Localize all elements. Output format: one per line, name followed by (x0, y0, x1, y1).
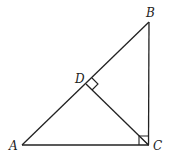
triangle-figure: A B C D (0, 0, 172, 166)
label-a: A (8, 139, 18, 153)
right-angle-diagonal-c (139, 136, 149, 145)
right-angle-mark-d (92, 78, 98, 90)
segment-bc (149, 22, 150, 145)
label-b: B (145, 6, 155, 20)
label-d: D (74, 72, 85, 86)
geometry-diagram: A B C D (0, 0, 172, 166)
label-c: C (153, 139, 162, 153)
